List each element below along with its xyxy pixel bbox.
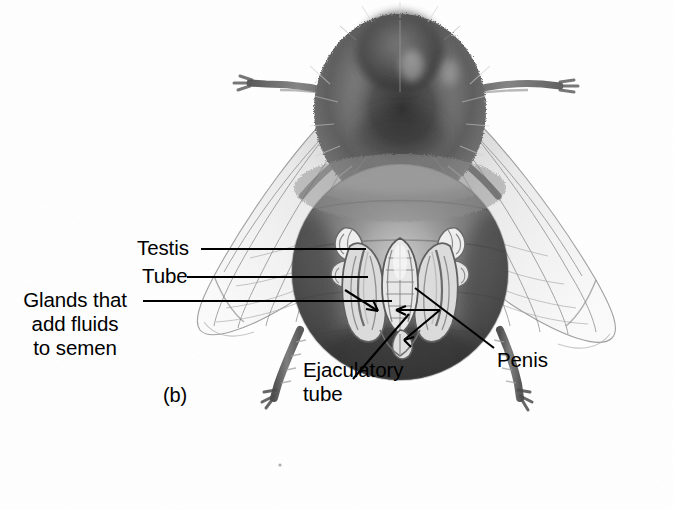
label-penis: Penis bbox=[497, 348, 548, 372]
label-ejaculatory-line1: Ejaculatory bbox=[303, 358, 423, 382]
label-tube: Tube bbox=[142, 264, 188, 288]
label-glands-line1: Glands that bbox=[10, 288, 140, 312]
label-ejaculatory-line2: tube bbox=[303, 382, 423, 406]
label-glands-line3: to semen bbox=[10, 336, 140, 360]
label-ejaculatory-tube: Ejaculatory tube bbox=[303, 358, 423, 406]
label-testis: Testis bbox=[137, 236, 189, 260]
label-glands: Glands that add fluids to semen bbox=[10, 288, 140, 360]
bee-illustration bbox=[0, 0, 673, 510]
scan-speck bbox=[278, 463, 281, 466]
label-glands-line2: add fluids bbox=[10, 312, 140, 336]
panel-label: (b) bbox=[163, 383, 187, 407]
bee-anatomy-figure: Testis Tube Glands that add fluids to se… bbox=[0, 0, 673, 510]
